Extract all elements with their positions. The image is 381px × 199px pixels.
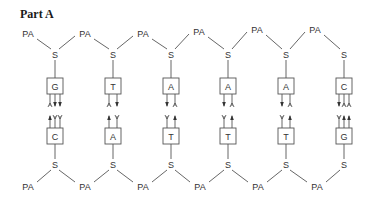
base-letter-top: G (51, 82, 58, 92)
backbone-bond (324, 35, 340, 49)
phosphate-label-bottom: PA (194, 182, 205, 192)
arrow-down-icon (222, 102, 226, 107)
backbone-bond (208, 37, 224, 49)
phosphate-label-top: PA (309, 25, 320, 35)
backbone-bond (232, 32, 247, 49)
base-letter-top: A (283, 82, 289, 92)
sugar-label-bottom: S (110, 160, 116, 170)
arrow-down-icon (337, 102, 341, 107)
sugar-label-bottom: S (52, 160, 58, 170)
phosphate-label-bottom: PA (137, 182, 148, 192)
backbone-bond (59, 36, 75, 49)
sugar-label-top: S (283, 50, 289, 60)
base-letter-top: A (168, 82, 174, 92)
phosphate-label-bottom: PA (79, 182, 90, 192)
backbone-bond (152, 170, 167, 182)
base-letter-bottom: T (225, 132, 231, 142)
arrow-up-icon (48, 115, 52, 120)
sugar-label-top: S (225, 50, 231, 60)
backbone-bond (37, 170, 51, 182)
arrow-down-icon (58, 102, 62, 107)
sugar-label-top: S (168, 50, 174, 60)
arrow-up-icon (288, 115, 292, 120)
phosphate-label-bottom: PA (252, 182, 263, 192)
base-letter-top: T (110, 82, 116, 92)
phosphate-label-bottom: PA (22, 182, 33, 192)
arrow-up-icon (342, 115, 346, 120)
phosphate-label-top: PA (251, 25, 262, 35)
backbone-bond (175, 34, 189, 49)
phosphate-label-bottom: PA (311, 182, 322, 192)
backbone-bond (175, 170, 190, 182)
base-letter-bottom: C (52, 132, 59, 142)
arrow-up-icon (230, 115, 234, 120)
sugar-label-bottom: S (283, 160, 289, 170)
sugar-label-top: S (110, 50, 116, 60)
base-letter-top: C (341, 82, 348, 92)
phosphate-label-top: PA (79, 29, 90, 39)
backbone-bond (266, 35, 282, 49)
arrow-up-icon (173, 115, 177, 120)
sugar-label-bottom: S (341, 160, 347, 170)
sugar-label-bottom: S (168, 160, 174, 170)
backbone-bond (209, 170, 224, 182)
backbone-bond (290, 170, 307, 182)
sugar-label-top: S (341, 50, 347, 60)
dna-base-pair-diagram: PAPAPAPAPAPAPAPAPAPAPAPASGCSSTASSATSSATS… (0, 0, 381, 199)
backbone-bond (232, 170, 248, 182)
backbone-bond (117, 170, 133, 182)
arrow-down-icon (115, 102, 119, 107)
arrow-down-icon (53, 102, 57, 107)
arrow-up-icon (347, 115, 351, 120)
arrow-up-icon (107, 115, 111, 120)
phosphate-label-top: PA (22, 29, 33, 39)
backbone-bond (59, 170, 75, 182)
base-letter-bottom: T (168, 132, 174, 142)
backbone-bond (117, 36, 133, 49)
backbone-bond (326, 170, 340, 182)
base-letter-bottom: A (110, 132, 116, 142)
backbone-bond (152, 39, 167, 49)
sugar-label-bottom: S (225, 160, 231, 170)
backbone-bond (37, 39, 51, 49)
backbone-bond (94, 39, 109, 49)
base-letter-top: A (225, 82, 231, 92)
phosphate-label-top: PA (137, 29, 148, 39)
sugar-label-top: S (52, 50, 58, 60)
base-letter-bottom: T (283, 132, 289, 142)
base-letter-bottom: G (340, 132, 347, 142)
phosphate-label-top: PA (193, 27, 204, 37)
backbone-bond (94, 170, 109, 182)
arrow-down-icon (165, 102, 169, 107)
arrow-down-icon (280, 102, 284, 107)
backbone-bond (290, 32, 305, 49)
backbone-bond (267, 170, 282, 182)
